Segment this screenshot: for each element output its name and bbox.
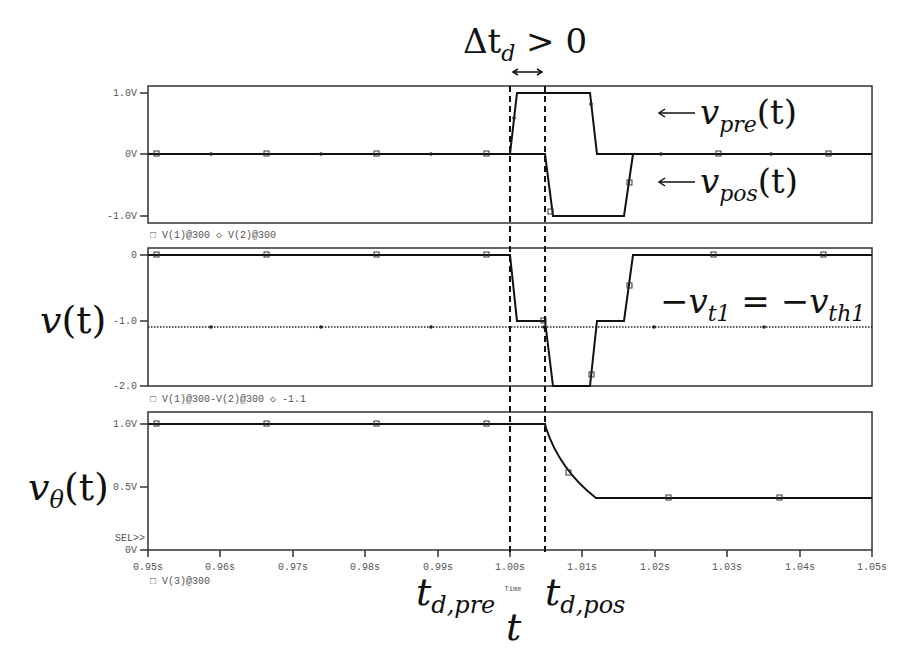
v-pre-annotation: vpre(t)	[659, 92, 797, 137]
x-axis-label: Time	[505, 585, 522, 593]
ytick-top-3: -1.0V	[107, 211, 137, 222]
threshold-label: −vt1 = −vth1	[660, 281, 865, 326]
delta-label: Δtd > 0	[463, 21, 587, 66]
diamond-markers-top	[209, 102, 773, 156]
chart-canvas: 1.0V 0V -1.0V □ V(1)@300 ◇ V(2)@300	[0, 0, 910, 669]
ytick-top-1: 1.0V	[113, 88, 137, 99]
ylabel-bottom: vθ(t)	[28, 465, 109, 514]
delta-annotation: Δtd > 0	[463, 21, 587, 75]
svg-text:0.97s: 0.97s	[278, 562, 308, 573]
ylabel-middle: v(t)	[40, 298, 106, 342]
panel-bottom: 1.0V 0.5V 0V SEL>> 0.95s 0.96s 0.97s 0.9…	[113, 412, 887, 593]
svg-text:1.05s: 1.05s	[857, 562, 887, 573]
ytick-mid-2: -1.0	[113, 316, 137, 327]
legend-bot: □ V(3)@300	[150, 576, 210, 587]
ytick-bot-1: 1.0V	[113, 419, 137, 430]
ytick-bot-2: 0.5V	[113, 482, 137, 493]
t-d-pos-label: td,pos	[545, 570, 625, 619]
panel-middle: 0 -1.0 -2.0 □ V(1)@300-V(2)@300 ◇ -1.1	[113, 248, 872, 405]
t-d-pre-label: td,pre	[416, 570, 495, 619]
svg-text:1.03s: 1.03s	[712, 562, 742, 573]
ytick-mid-3: -2.0	[113, 381, 137, 392]
v-pre-label: vpre(t)	[700, 92, 797, 137]
svg-text:1.02s: 1.02s	[640, 562, 670, 573]
svg-text:1.04s: 1.04s	[785, 562, 815, 573]
x-tick-labels: 0.95s 0.96s 0.97s 0.98s 0.99s 1.00s 1.01…	[133, 562, 887, 573]
svg-text:0.95s: 0.95s	[133, 562, 163, 573]
sel-label: SEL>>	[115, 533, 145, 544]
v-pos-annotation: vpos(t)	[659, 161, 798, 206]
legend-mid: □ V(1)@300-V(2)@300 ◇ -1.1	[150, 394, 306, 405]
svg-text:1.00s: 1.00s	[495, 562, 525, 573]
svg-text:1.01s: 1.01s	[567, 562, 597, 573]
ytick-mid-1: 0	[131, 250, 137, 261]
ytick-top-2: 0V	[125, 149, 137, 160]
svg-text:0.98s: 0.98s	[350, 562, 380, 573]
v-pos-label: vpos(t)	[700, 161, 798, 206]
svg-text:0.96s: 0.96s	[205, 562, 235, 573]
legend-top: □ V(1)@300 ◇ V(2)@300	[150, 230, 276, 241]
t-axis-label: t	[506, 605, 522, 649]
series-markers-bot	[154, 421, 782, 500]
ytick-bot-3: 0V	[125, 545, 137, 556]
